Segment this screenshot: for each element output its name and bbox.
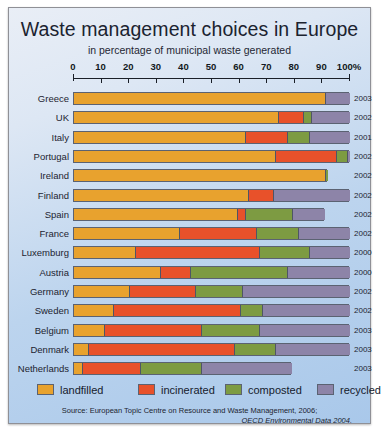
row-year: 2002 — [354, 306, 372, 315]
stacked-bar-sweden[interactable] — [73, 304, 349, 317]
source-line-2: OECD Environmental Data 2004. — [9, 416, 352, 425]
row-label-belgium: Belgium — [9, 325, 69, 336]
segment-composted — [303, 112, 311, 123]
x-tick-label-80: 80 — [289, 61, 300, 72]
row-year: 2002 — [354, 191, 372, 200]
segment-landfilled — [74, 267, 160, 278]
segment-composted — [201, 325, 259, 336]
x-tick-label-50: 50 — [206, 61, 217, 72]
row-label-netherlands: Netherlands — [9, 363, 69, 374]
x-tick-10 — [101, 79, 102, 83]
row-label-greece: Greece — [9, 93, 69, 104]
x-tick-30 — [156, 79, 157, 83]
segment-composted — [140, 363, 201, 374]
row-year: 2002 — [354, 113, 372, 122]
segment-composted — [256, 228, 297, 239]
chart-row: UK2002 — [9, 111, 370, 124]
segment-landfilled — [74, 209, 237, 220]
legend-swatch-recycled — [317, 384, 334, 395]
row-label-france: France — [9, 228, 69, 239]
row-year: 2002 — [354, 152, 372, 161]
segment-recycled — [242, 286, 350, 297]
x-tick-label-10: 10 — [95, 61, 106, 72]
segment-landfilled — [74, 286, 129, 297]
row-label-finland: Finland — [9, 190, 69, 201]
row-year: 2001 — [354, 133, 372, 142]
row-year: 2003 — [354, 326, 372, 335]
row-label-sweden: Sweden — [9, 305, 69, 316]
stacked-bar-austria[interactable] — [73, 266, 349, 279]
x-tick-100 — [349, 74, 350, 81]
chart-row: Austria2000 — [9, 266, 370, 279]
segment-recycled — [287, 267, 350, 278]
stacked-bar-belgium[interactable] — [73, 324, 349, 337]
row-year: 2002 — [354, 229, 372, 238]
stacked-bar-finland[interactable] — [73, 189, 349, 202]
segment-recycled — [325, 93, 350, 104]
chart-row: Italy2001 — [9, 131, 370, 144]
segment-composted — [325, 170, 328, 181]
legend-item-landfilled[interactable]: landfilled — [37, 380, 103, 396]
chart-row: Germany2002 — [9, 285, 370, 298]
stacked-bar-uk[interactable] — [73, 111, 349, 124]
stacked-bar-italy[interactable] — [73, 131, 349, 144]
stacked-bar-greece[interactable] — [73, 92, 349, 105]
x-tick-80 — [294, 79, 295, 83]
segment-composted — [259, 247, 309, 258]
row-year: 2000 — [354, 268, 372, 277]
segment-recycled — [259, 325, 350, 336]
row-label-spain: Spain — [9, 209, 69, 220]
chart-row: France2002 — [9, 227, 370, 240]
segment-landfilled — [74, 344, 88, 355]
segment-recycled — [201, 363, 292, 374]
x-tick-label-60: 60 — [233, 61, 244, 72]
legend-item-composted[interactable]: composted — [225, 380, 302, 396]
stacked-bar-spain[interactable] — [73, 208, 324, 221]
row-label-luxemburg: Luxemburg — [9, 247, 69, 258]
segment-composted — [195, 286, 242, 297]
source-line-1: Source: European Topic Centre on Resourc… — [9, 406, 370, 415]
chart-row: Netherlands2003 — [9, 362, 370, 375]
chart-row: Greece2003 — [9, 92, 370, 105]
x-tick-0 — [73, 74, 74, 81]
segment-incinerated — [278, 112, 303, 123]
segment-incinerated — [245, 132, 286, 143]
segment-incinerated — [104, 325, 201, 336]
segment-landfilled — [74, 112, 278, 123]
x-axis-tick-labels: 0102030405060708090100% — [9, 61, 370, 74]
chart-legend: landfilledincineratedcompostedrecycled — [9, 380, 370, 396]
row-year: 2000 — [354, 248, 372, 257]
x-tick-label-0: 0 — [70, 61, 75, 72]
stacked-bar-denmark[interactable] — [73, 343, 349, 356]
stacked-bar-ireland[interactable] — [73, 169, 327, 182]
legend-label: composted — [248, 384, 302, 396]
segment-incinerated — [113, 305, 240, 316]
segment-incinerated — [82, 363, 140, 374]
stacked-bar-netherlands[interactable] — [73, 362, 291, 375]
x-tick-50 — [211, 79, 212, 83]
x-tick-label-70: 70 — [261, 61, 272, 72]
stacked-bar-france[interactable] — [73, 227, 349, 240]
x-tick-20 — [128, 79, 129, 83]
segment-incinerated — [135, 247, 259, 258]
row-label-austria: Austria — [9, 267, 69, 278]
segment-incinerated — [248, 190, 273, 201]
x-tick-70 — [266, 79, 267, 83]
segment-recycled — [273, 190, 350, 201]
stacked-bar-luxemburg[interactable] — [73, 246, 349, 259]
legend-item-incinerated[interactable]: incinerated — [138, 380, 215, 396]
segment-incinerated — [237, 209, 245, 220]
chart-row: Luxemburg2000 — [9, 246, 370, 259]
segment-recycled — [311, 112, 350, 123]
segment-recycled — [298, 228, 350, 239]
legend-swatch-landfilled — [37, 384, 54, 395]
stacked-bar-germany[interactable] — [73, 285, 349, 298]
x-tick-label-30: 30 — [151, 61, 162, 72]
stacked-bar-portugal[interactable] — [73, 150, 349, 163]
chart-row: Finland2002 — [9, 189, 370, 202]
row-label-uk: UK — [9, 112, 69, 123]
row-label-germany: Germany — [9, 286, 69, 297]
legend-item-recycled[interactable]: recycled — [317, 380, 381, 396]
x-tick-label-20: 20 — [123, 61, 134, 72]
legend-label: landfilled — [60, 384, 103, 396]
